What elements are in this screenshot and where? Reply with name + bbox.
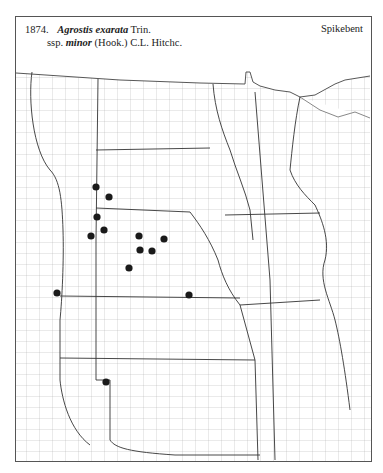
common-name: Spikebent (321, 23, 363, 34)
subspecies-name: minor (66, 37, 92, 48)
occurrence-marker (87, 232, 94, 239)
species-binomial: Agrostis exarata (57, 24, 128, 35)
occurrence-marker (105, 193, 112, 200)
occurrence-marker (136, 246, 143, 253)
subspecies-author: (Hook.) C.L. Hitchc. (95, 37, 182, 48)
occurrence-marker (93, 213, 100, 220)
occurrence-marker (53, 289, 60, 296)
occurrence-marker (185, 291, 192, 298)
occurrence-marker (125, 264, 132, 271)
occurrence-marker (100, 226, 107, 233)
species-title: 1874. Agrostis exarata Trin. ssp. minor … (25, 23, 182, 49)
county-map (15, 16, 372, 462)
county-grid (15, 70, 372, 462)
species-author: Trin. (131, 24, 151, 35)
rank-label: ssp. (47, 37, 63, 48)
species-number: 1874. (25, 24, 49, 35)
occurrence-marker (135, 232, 142, 239)
occurrence-marker (160, 235, 167, 242)
occurrence-marker (92, 183, 99, 190)
occurrence-marker (148, 247, 155, 254)
occurrence-marker (102, 378, 109, 385)
